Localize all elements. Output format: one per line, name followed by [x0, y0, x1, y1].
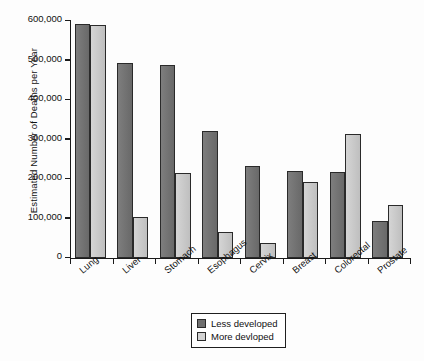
- bar-lung-more-developed: [90, 25, 106, 258]
- x-axis-tick: [240, 259, 241, 264]
- y-axis-tick-label: 0: [57, 250, 62, 261]
- bar-group: [330, 21, 361, 258]
- y-axis-tick: 0: [65, 257, 70, 258]
- y-axis-tick: 300,000: [65, 138, 70, 139]
- x-axis-tick: [198, 259, 199, 264]
- x-axis-tick: [70, 259, 71, 264]
- x-axis-tick: [283, 259, 284, 264]
- bar-breast-less-developed: [287, 171, 303, 258]
- bar-breast-more-developed: [303, 182, 319, 258]
- y-axis-tick: 400,000: [65, 99, 70, 100]
- bar-colorectal-less-developed: [330, 172, 346, 258]
- chart-figure: Estimated Number of Deaths per Year 0100…: [0, 0, 424, 361]
- x-axis-tick: [368, 259, 369, 264]
- x-axis-tick: [410, 259, 411, 264]
- legend-swatch-more-developed: [197, 332, 206, 341]
- bar-group: [287, 21, 318, 258]
- bar-prostate-less-developed: [372, 221, 388, 258]
- y-axis-tick-label: 400,000: [28, 92, 62, 103]
- bar-colorectal-more-developed: [345, 134, 361, 258]
- y-axis-tick-label: 500,000: [28, 53, 62, 64]
- bar-group: [117, 21, 148, 258]
- legend-item: Less developed: [197, 317, 278, 330]
- y-axis-tick: 600,000: [65, 20, 70, 21]
- bar-stomach-less-developed: [160, 65, 176, 258]
- x-axis-tick: [155, 259, 156, 264]
- legend-label: Less developed: [211, 318, 278, 329]
- bar-esophagus-less-developed: [202, 131, 218, 258]
- plot-area: 0100,000200,000300,000400,000500,000600,…: [70, 21, 410, 258]
- legend-label: More devloped: [211, 331, 274, 342]
- y-axis-tick-label: 100,000: [28, 211, 62, 222]
- bar-liver-less-developed: [117, 63, 133, 258]
- legend-item: More devloped: [197, 330, 278, 343]
- bar-lung-less-developed: [75, 24, 91, 258]
- y-axis-tick: 500,000: [65, 59, 70, 60]
- bar-group: [75, 21, 106, 258]
- bar-liver-more-developed: [133, 217, 149, 258]
- y-axis-tick: 200,000: [65, 178, 70, 179]
- chart-legend: Less developedMore devloped: [191, 313, 286, 348]
- y-axis-tick-label: 300,000: [28, 132, 62, 143]
- legend-swatch-less-developed: [197, 319, 206, 328]
- bar-group: [160, 21, 191, 258]
- bar-group: [372, 21, 403, 258]
- y-axis-tick: 100,000: [65, 217, 70, 218]
- y-axis-tick-label: 600,000: [28, 13, 62, 24]
- bar-group: [245, 21, 276, 258]
- x-axis-tick: [113, 259, 114, 264]
- x-axis-tick: [325, 259, 326, 264]
- bar-group: [202, 21, 233, 258]
- y-axis-tick-label: 200,000: [28, 171, 62, 182]
